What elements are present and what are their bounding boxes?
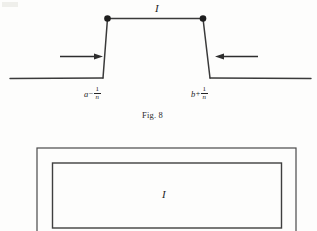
figure-caption: Fig. 8	[142, 110, 163, 120]
right-tick-label: b + 1 n	[191, 86, 208, 102]
left-tick-fraction: 1 n	[94, 86, 101, 102]
left-tick-numerator: 1	[95, 86, 101, 93]
inner-rectangle	[53, 163, 282, 228]
right-arrow-icon	[215, 53, 258, 59]
left-arrow-icon	[60, 53, 103, 59]
left-baseline	[10, 78, 103, 79]
right-endpoint-dot	[200, 15, 207, 22]
left-rising-edge	[103, 19, 108, 79]
right-tick-denominator: n	[202, 94, 208, 101]
plateau-interval-label: I	[155, 3, 159, 14]
outer-rectangle	[37, 148, 296, 231]
right-falling-edge	[203, 19, 210, 79]
right-baseline	[210, 78, 311, 79]
rectangle-interval-label: I	[162, 189, 166, 200]
figure-page: I a − 1 n b + 1 n Fig. 8 I	[0, 0, 317, 231]
step-function-curve	[10, 19, 311, 79]
left-tick-denominator: n	[95, 94, 101, 101]
right-tick-numerator: 1	[202, 86, 208, 93]
left-endpoint-dot	[104, 15, 111, 22]
left-tick-label: a − 1 n	[84, 86, 101, 102]
right-tick-fraction: 1 n	[201, 86, 208, 102]
